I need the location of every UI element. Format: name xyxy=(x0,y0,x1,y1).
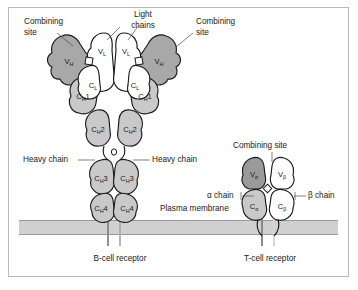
callout-combining-site-left-line2: site xyxy=(24,27,86,38)
diagram-canvas: VL VL VH VH CL CL CH1 CH1 CH2 CH2 CH3 CH… xyxy=(0,0,358,290)
callout-combining-site-left-line1: Combining xyxy=(24,16,86,27)
domain-sub-v-alpha: α xyxy=(255,174,258,180)
domain-num-ch4-right: 4 xyxy=(130,204,134,213)
callout-light-chains: Light chains xyxy=(121,9,165,31)
domain-num-ch1-right: 1 xyxy=(148,92,152,101)
domain-num-ch4-left: 4 xyxy=(104,204,108,213)
b-cell-receptor: VL VL VH VH CL CL CH1 CH1 CH2 CH2 CH3 CH… xyxy=(48,33,181,246)
callout-light-chains-line2: chains xyxy=(121,20,165,31)
callout-combining-site-right-line1: Combining xyxy=(196,16,258,27)
bcr-binding-square-left xyxy=(85,57,93,65)
bcr-hinge-knot xyxy=(111,149,116,155)
domain-num-ch2-right: 2 xyxy=(133,125,137,134)
domain-sub-vl-left: L xyxy=(103,51,106,57)
callout-heavy-chain-right: Heavy chain xyxy=(152,155,197,164)
callout-heavy-chain-left: Heavy chain xyxy=(23,155,68,164)
domain-num-ch3-right: 3 xyxy=(130,174,134,183)
callout-light-chains-line1: Light xyxy=(121,9,165,20)
caption-t-cell-receptor: T-cell receptor xyxy=(222,254,318,263)
domain-sub-c-beta: β xyxy=(283,206,286,212)
domain-sub-c-alpha: α xyxy=(255,206,258,212)
tcr-binding-square xyxy=(263,184,271,192)
callout-combining-site-right-line2: site xyxy=(196,27,258,38)
immunoreceptor-figure: VL VL VH VH CL CL CH1 CH1 CH2 CH2 CH3 CH… xyxy=(0,0,358,290)
domain-num-ch2-left: 2 xyxy=(101,125,105,134)
leader-combining-site-right xyxy=(176,33,193,47)
caption-b-cell-receptor: B-cell receptor xyxy=(72,254,168,263)
callout-combining-site-right: Combining site xyxy=(196,16,258,38)
domain-sub-v-beta: β xyxy=(283,174,286,180)
callout-alpha-chain: α chain xyxy=(207,191,234,200)
plasma-membrane xyxy=(19,220,338,235)
callout-combining-site-left: Combining site xyxy=(24,16,86,38)
domain-sub-vh-left: H xyxy=(70,61,74,67)
domain-sub-vl-right: L xyxy=(127,51,130,57)
domain-sub-vh-right: H xyxy=(160,61,164,67)
domain-num-ch1-left: 1 xyxy=(86,92,90,101)
callout-tcr-combining-site: Combining site xyxy=(233,141,287,150)
domain-num-ch3-left: 3 xyxy=(104,174,108,183)
domain-sub-cl-left: L xyxy=(94,85,97,91)
domain-sub-cl-right: L xyxy=(136,85,139,91)
bcr-binding-square-right xyxy=(135,57,143,65)
callout-beta-chain: β chain xyxy=(308,191,335,200)
callout-plasma-membrane: Plasma membrane xyxy=(160,204,229,213)
